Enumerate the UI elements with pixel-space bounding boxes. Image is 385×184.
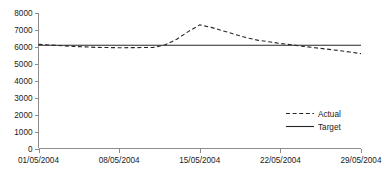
- legend: Actual Target: [286, 110, 341, 132]
- series-line-actual: [39, 25, 362, 54]
- y-tick-label: 6000: [14, 43, 33, 52]
- y-tick-label: 2000: [14, 111, 33, 120]
- y-tick-label: 1000: [14, 128, 33, 137]
- y-tick-label: 0: [28, 145, 33, 154]
- x-tick-label: 08/05/2004: [99, 156, 140, 165]
- x-tick-label: 29/05/2004: [341, 156, 382, 165]
- y-tick-label: 3000: [14, 94, 33, 103]
- x-tick-label: 01/05/2004: [18, 156, 59, 165]
- y-tick-label: 8000: [14, 9, 33, 18]
- line-chart: 010002000300040005000600070008000 01/05/…: [0, 0, 385, 184]
- y-axis-ticks: [35, 14, 39, 150]
- y-axis: 010002000300040005000600070008000: [14, 9, 38, 154]
- y-tick-label: 4000: [14, 77, 33, 86]
- y-axis-tick-labels: 010002000300040005000600070008000: [14, 9, 33, 154]
- x-tick-label: 15/05/2004: [179, 156, 220, 165]
- x-axis-ticks: [40, 149, 362, 153]
- legend-label-actual: Actual: [318, 110, 341, 119]
- y-tick-label: 5000: [14, 60, 33, 69]
- y-tick-label: 7000: [14, 26, 33, 35]
- x-tick-label: 22/05/2004: [260, 156, 301, 165]
- legend-label-target: Target: [318, 123, 341, 132]
- plot-series: [39, 25, 362, 54]
- x-axis-tick-labels: 01/05/200408/05/200415/05/200422/05/2004…: [18, 156, 382, 165]
- chart-canvas: 010002000300040005000600070008000 01/05/…: [0, 0, 385, 184]
- x-axis: 01/05/200408/05/200415/05/200422/05/2004…: [18, 149, 382, 165]
